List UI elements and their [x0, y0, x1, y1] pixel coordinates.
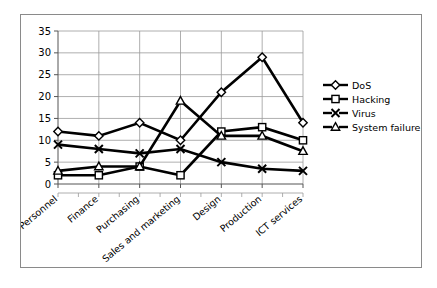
y-axis-tick-label: 10 — [38, 135, 51, 146]
data-point-marker-triangle — [176, 97, 184, 105]
data-point-marker-square — [177, 172, 184, 179]
legend-item-system-failure[interactable]: System failure — [323, 122, 421, 133]
legend-item-dos[interactable]: DoS — [323, 80, 371, 91]
legend-label: Virus — [352, 108, 376, 119]
legend-label: System failure — [352, 122, 421, 133]
x-axis-category-label: Design — [190, 193, 222, 223]
y-axis-tick-label: 0 — [45, 179, 51, 190]
legend-item-virus[interactable]: Virus — [323, 108, 376, 119]
x-axis-labels: PersonnelFinancePurchasingSales and mark… — [21, 193, 304, 264]
data-point-marker-triangle — [331, 123, 339, 131]
y-axis-tick-label: 15 — [38, 113, 51, 124]
x-axis-ticks — [58, 184, 303, 197]
data-point-marker-diamond — [331, 81, 339, 89]
data-point-marker-square — [299, 137, 306, 144]
y-axis-tick-label: 5 — [45, 157, 51, 168]
legend-label: Hacking — [352, 94, 390, 105]
legend-label: DoS — [352, 80, 371, 91]
data-point-marker-square — [332, 95, 339, 102]
x-axis-category-label: Finance — [65, 193, 100, 225]
data-point-marker-diamond — [135, 119, 143, 127]
y-axis-tick-label: 35 — [38, 26, 51, 37]
legend-item-hacking[interactable]: Hacking — [323, 94, 390, 105]
data-point-marker-x — [332, 109, 340, 117]
y-axis-tick-label: 30 — [38, 47, 51, 58]
x-axis-category-label: Sales and marketing — [100, 193, 182, 264]
chart-legend: DoSHackingVirusSystem failure — [323, 80, 421, 133]
line-chart: 05101520253035PersonnelFinancePurchasing… — [21, 15, 421, 267]
data-point-marker-square — [259, 124, 266, 131]
data-point-marker-square — [95, 172, 102, 179]
y-axis-tick-label: 20 — [38, 91, 51, 102]
chart-figure: 05101520253035PersonnelFinancePurchasing… — [20, 14, 422, 268]
x-axis-category-label: Personnel — [21, 193, 59, 231]
data-point-marker-diamond — [54, 127, 62, 135]
data-point-marker-diamond — [95, 132, 103, 140]
y-axis-tick-label: 25 — [38, 69, 51, 80]
gridlines: 05101520253035 — [38, 26, 303, 190]
